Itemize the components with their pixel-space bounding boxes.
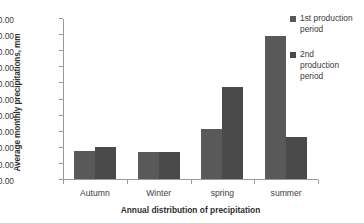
- bar-winter-series1: [138, 152, 159, 179]
- legend-entry-1st-production-period: 1st production period: [290, 13, 364, 35]
- y-axis-tick-label: 80.00: [0, 80, 14, 88]
- bar-autumn-series1: [74, 151, 95, 179]
- y-axis-tick-label: 60.00: [0, 112, 14, 120]
- bar-spring-series1: [201, 129, 222, 179]
- chart-legend: 1st production period 2nd production per…: [290, 13, 364, 96]
- x-axis-tick: [63, 180, 64, 184]
- legend-label-line: period: [290, 24, 364, 35]
- y-axis-tick-label: 30.00: [0, 161, 14, 169]
- y-axis-tick: [59, 115, 63, 116]
- bar-spring-series2: [222, 87, 243, 179]
- x-axis-title: Annual distribution of precipitation: [63, 205, 318, 215]
- x-axis-tick: [318, 180, 319, 184]
- legend-label-line: period: [290, 71, 364, 82]
- legend-swatch-icon-series2: [290, 52, 296, 58]
- bar-winter-series2: [159, 152, 180, 179]
- y-axis-tick: [59, 66, 63, 67]
- legend-entry-2nd-production-period: 2nd production period: [290, 49, 364, 82]
- bar-summer-series1: [265, 36, 286, 179]
- x-axis-category-label: Winter: [124, 188, 194, 198]
- y-axis-tick: [59, 34, 63, 35]
- bar-chart: Average monthly precipitations, mm 20.00…: [0, 0, 364, 223]
- x-axis-category-label: summer: [251, 188, 321, 198]
- plot-area: 20.0030.0040.0050.0060.0070.0080.0090.00…: [63, 19, 318, 180]
- y-axis-tick-label: 50.00: [0, 128, 14, 136]
- y-axis-tick-label: 70.00: [0, 96, 14, 104]
- x-axis-tick: [127, 180, 128, 184]
- y-axis-tick-label: 20.00: [0, 177, 14, 185]
- bar-summer-series2: [286, 137, 307, 179]
- y-axis-tick: [59, 147, 63, 148]
- y-axis-tick: [59, 163, 63, 164]
- y-axis-tick-label: 110.00: [0, 32, 14, 40]
- y-axis-tick-label: 90.00: [0, 64, 14, 72]
- x-axis-category-label: Autumn: [60, 188, 130, 198]
- bar-autumn-series2: [95, 147, 116, 179]
- legend-label-line: production: [290, 60, 364, 71]
- x-axis-tick: [254, 180, 255, 184]
- x-axis-category-label: spring: [187, 188, 257, 198]
- legend-swatch-icon-series1: [290, 16, 296, 22]
- legend-label-line: 1st production: [290, 13, 364, 24]
- y-axis-tick: [59, 99, 63, 100]
- y-axis-tick: [59, 18, 63, 19]
- y-axis-tick: [59, 82, 63, 83]
- y-axis-tick: [59, 131, 63, 132]
- y-axis-line: [63, 19, 64, 180]
- y-axis-tick-label: 40.00: [0, 144, 14, 152]
- legend-label-line: 2nd: [290, 49, 364, 60]
- x-axis-tick: [191, 180, 192, 184]
- y-axis-tick-label: 100.00: [0, 48, 14, 56]
- y-axis-tick: [59, 50, 63, 51]
- y-axis-tick-label: 120.00: [0, 16, 14, 24]
